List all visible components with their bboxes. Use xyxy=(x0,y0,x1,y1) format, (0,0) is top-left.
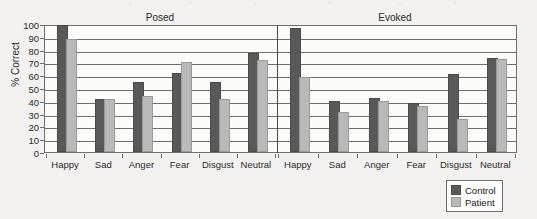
bar-patient-neutral xyxy=(496,59,507,152)
legend-item-patient: Patient xyxy=(451,196,496,208)
x-tick-mark xyxy=(318,154,319,158)
bar-group xyxy=(290,26,308,152)
gridline xyxy=(45,77,516,78)
y-tick-label: 0 xyxy=(34,148,39,159)
bar-chart-figure: Posed Evoked % Correct 01020304050607080… xyxy=(0,0,537,219)
x-tick-label: Sad xyxy=(329,159,346,170)
x-tick-mark xyxy=(199,154,200,158)
x-tick-mark xyxy=(237,154,238,158)
gridline xyxy=(45,141,516,142)
x-tick-label: Neutral xyxy=(480,159,511,170)
x-tick-mark xyxy=(46,154,47,158)
x-tick-mark xyxy=(436,154,437,158)
x-tick-mark xyxy=(357,154,358,158)
bar-patient-fear xyxy=(417,106,428,152)
bar-group xyxy=(172,26,190,152)
legend: Control Patient xyxy=(446,180,503,212)
gridline xyxy=(45,116,516,117)
bar-group xyxy=(487,26,505,152)
panel-title-evoked: Evoked xyxy=(355,12,435,23)
y-tick-label: 90 xyxy=(28,32,39,43)
bar-group xyxy=(57,26,75,152)
bar-patient-anger xyxy=(142,96,153,152)
x-axis: HappySadAngerFearDisgustNeutralHappySadA… xyxy=(44,154,517,172)
y-tick-label: 50 xyxy=(28,84,39,95)
bar-group xyxy=(133,26,151,152)
bar-patient-fear xyxy=(181,62,192,152)
y-tick-label: 70 xyxy=(28,58,39,69)
legend-swatch-patient xyxy=(451,197,461,207)
bar-group xyxy=(95,26,113,152)
gridline xyxy=(45,52,516,53)
x-tick-label: Disgust xyxy=(202,159,234,170)
gridline xyxy=(45,64,516,65)
bar-patient-anger xyxy=(378,101,389,152)
bar-group xyxy=(369,26,387,152)
x-tick-label: Happy xyxy=(51,159,78,170)
y-tick-label: 40 xyxy=(28,96,39,107)
gridline xyxy=(45,90,516,91)
scan-noise xyxy=(0,0,537,8)
y-tick-label: 30 xyxy=(28,109,39,120)
y-axis: % Correct 0102030405060708090100 xyxy=(0,25,44,153)
bar-patient-neutral xyxy=(257,60,268,152)
bar-patient-happy xyxy=(66,39,77,152)
x-tick-mark xyxy=(397,154,398,158)
x-tick-label: Fear xyxy=(170,159,190,170)
y-tick-label: 60 xyxy=(28,71,39,82)
x-tick-mark xyxy=(161,154,162,158)
x-tick-mark xyxy=(84,154,85,158)
panel-divider xyxy=(277,25,278,153)
x-tick-mark xyxy=(122,154,123,158)
bar-group xyxy=(248,26,266,152)
y-axis-label: % Correct xyxy=(10,10,21,120)
y-tick-label: 100 xyxy=(23,20,39,31)
bar-group xyxy=(408,26,426,152)
x-tick-label: Disgust xyxy=(440,159,472,170)
panel-title-posed: Posed xyxy=(120,12,200,23)
legend-label-patient: Patient xyxy=(465,197,495,208)
x-tick-mark xyxy=(515,154,516,158)
bar-patient-sad xyxy=(104,99,115,152)
y-tick-label: 20 xyxy=(28,122,39,133)
legend-label-control: Control xyxy=(465,185,496,196)
x-tick-label: Anger xyxy=(129,159,154,170)
y-tick-label: 10 xyxy=(28,135,39,146)
bar-patient-sad xyxy=(338,112,349,152)
bar-patient-disgust xyxy=(219,99,230,152)
x-tick-label: Sad xyxy=(95,159,112,170)
gridline xyxy=(45,39,516,40)
legend-item-control: Control xyxy=(451,184,496,196)
x-tick-mark xyxy=(275,154,276,158)
gridline xyxy=(45,103,516,104)
x-tick-label: Anger xyxy=(364,159,389,170)
x-tick-mark xyxy=(278,154,279,158)
y-tick-label: 80 xyxy=(28,45,39,56)
x-tick-mark xyxy=(476,154,477,158)
bar-group xyxy=(448,26,466,152)
bar-group xyxy=(329,26,347,152)
bar-patient-happy xyxy=(299,77,310,152)
gridlines xyxy=(45,26,516,152)
x-tick-label: Happy xyxy=(284,159,311,170)
gridline xyxy=(45,128,516,129)
plot-area xyxy=(44,25,517,153)
x-tick-label: Neutral xyxy=(241,159,272,170)
legend-swatch-control xyxy=(451,185,461,195)
x-tick-label: Fear xyxy=(406,159,426,170)
bar-patient-disgust xyxy=(457,119,468,152)
bar-group xyxy=(210,26,228,152)
